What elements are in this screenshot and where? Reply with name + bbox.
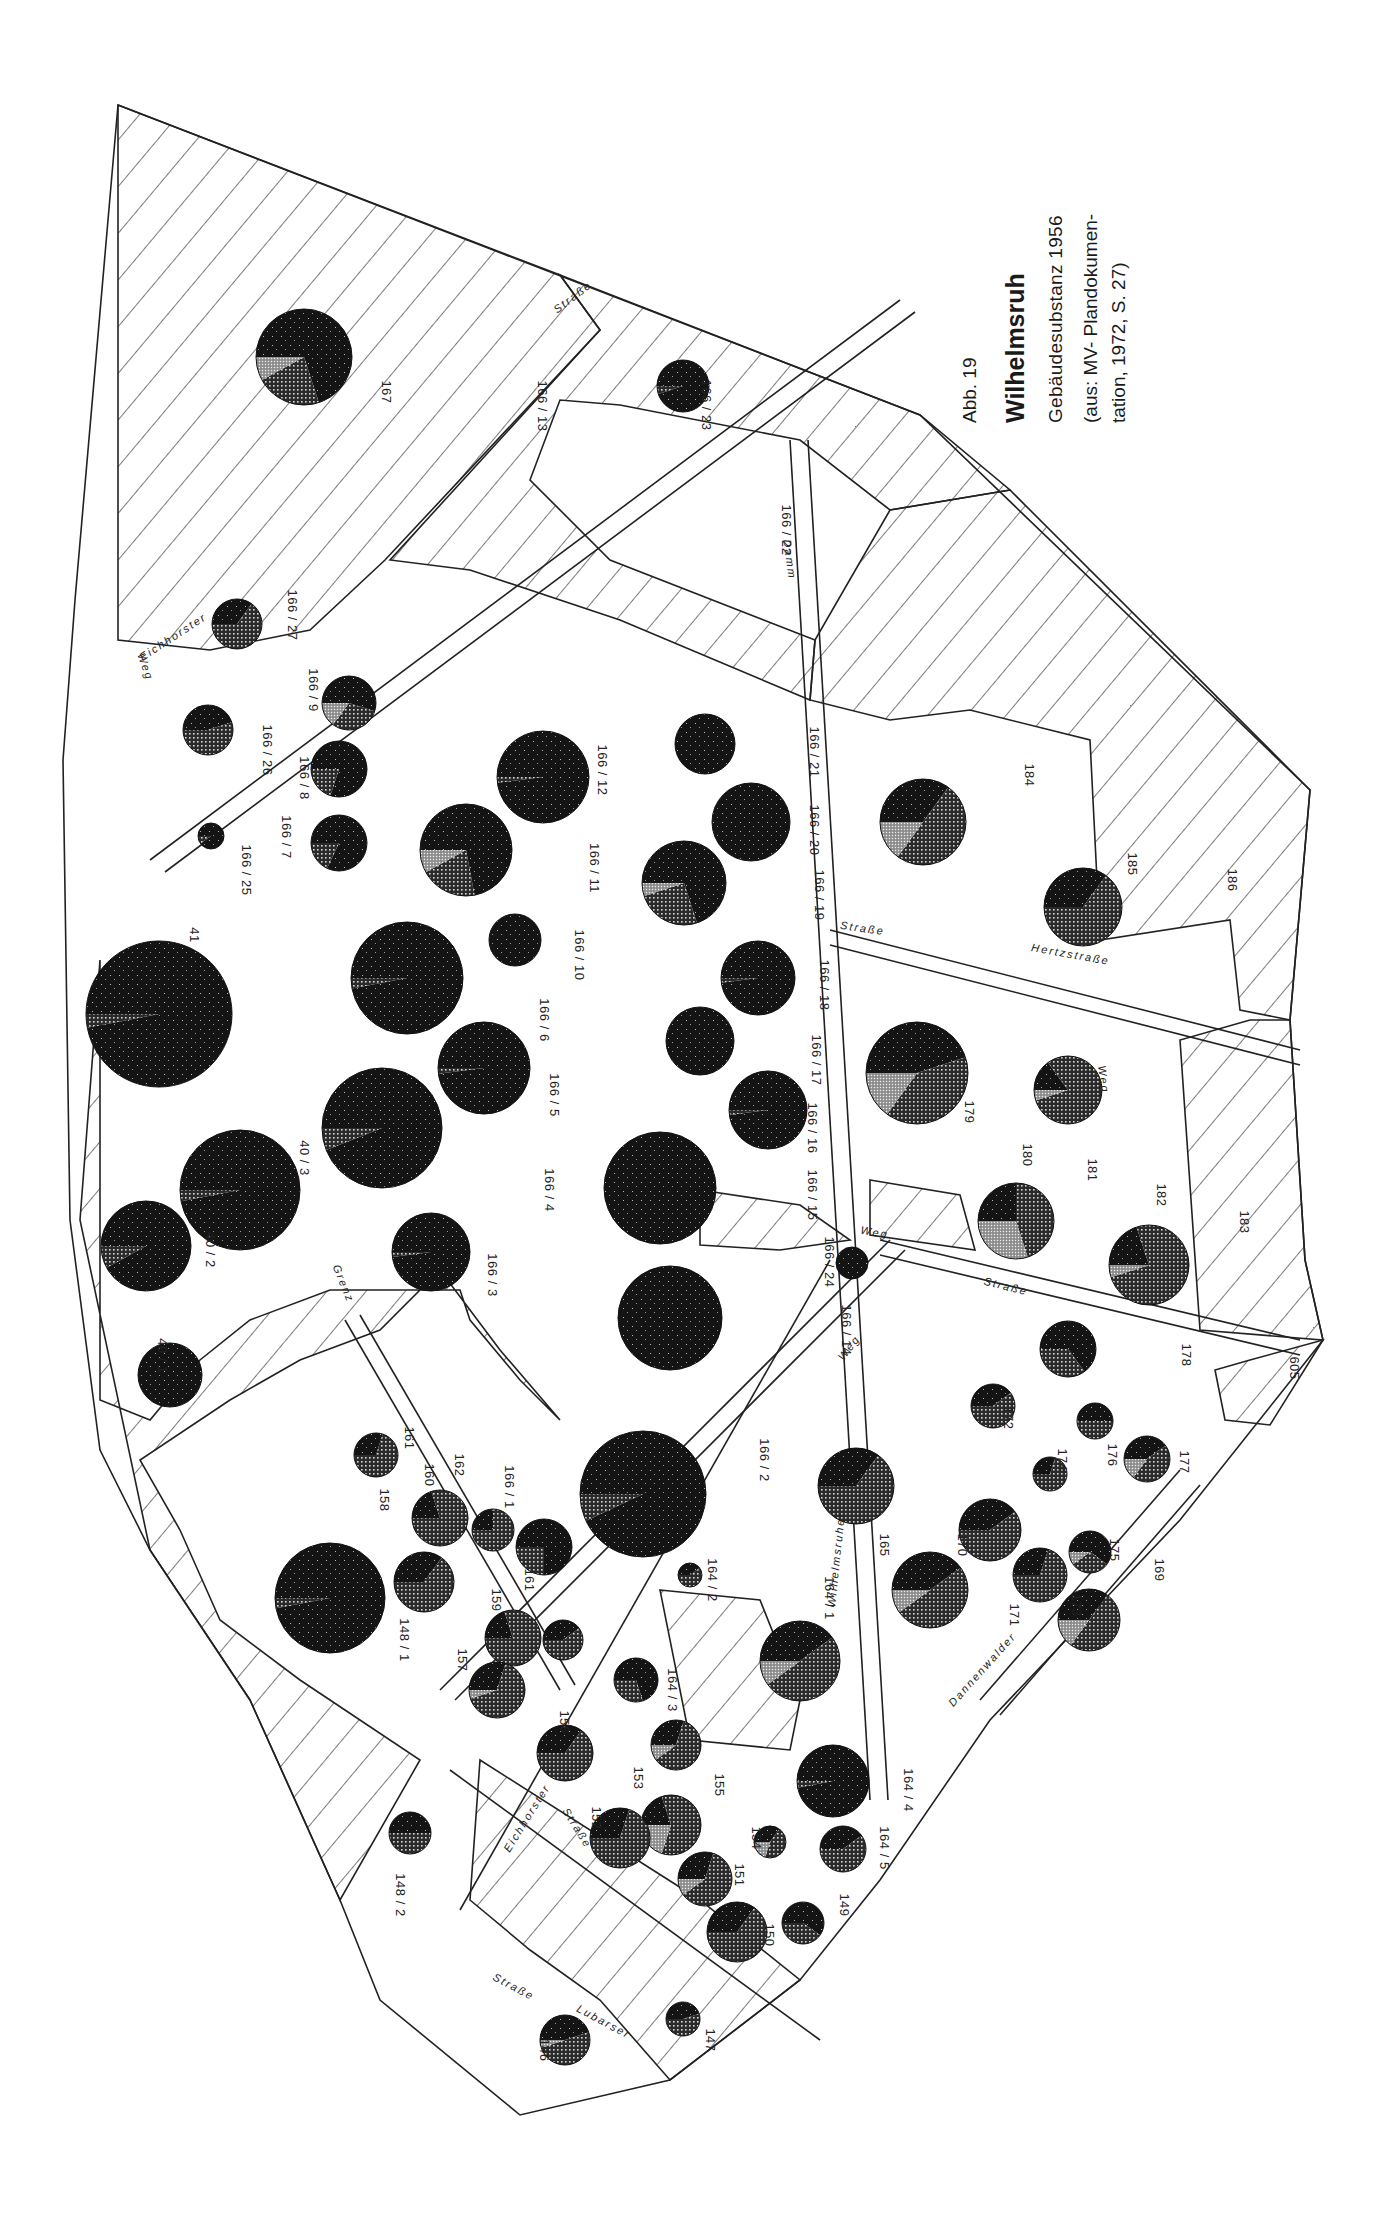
parcel-number-label: 166 / 24	[822, 1237, 837, 1288]
building-pie-symbol	[322, 676, 376, 730]
building-pie-symbol	[394, 1552, 454, 1612]
building-pie-symbol	[351, 922, 463, 1034]
parcel-number-label: 175	[1107, 1538, 1122, 1561]
building-pie-symbol	[1044, 868, 1122, 946]
parcel-number-label: 166 / 5	[547, 1073, 562, 1116]
street-name-label: Straße	[983, 1275, 1030, 1298]
parcel-number-label: 152	[589, 1806, 604, 1829]
parcel-number-label: 166 / 12	[595, 745, 610, 796]
building-pie-symbol	[1069, 1531, 1111, 1573]
building-pie-symbol	[880, 779, 966, 865]
parcel-number-label: 166 / 21	[807, 727, 822, 778]
building-pie-symbol	[782, 1902, 824, 1944]
figure-caption: Abb. 19 Wilhelmsruh Gebäudesubstanz 1956…	[925, 165, 1145, 435]
building-pie-symbol	[818, 1448, 894, 1524]
figure-subtitle: Gebäudesubstanz 1956	[1045, 215, 1067, 423]
building-pie-symbol	[866, 1022, 968, 1124]
building-pie-symbol	[892, 1552, 968, 1628]
parcel-number-label: 153	[631, 1766, 646, 1789]
street-name-label: Straße	[491, 1971, 536, 2003]
parcel-number-label: 41	[187, 927, 202, 942]
parcel-number-label: 166 / 3	[485, 1253, 500, 1296]
building-pie-symbol	[311, 815, 367, 871]
figure-source-line-1: (aus: MV- Plandokumen-	[1080, 214, 1102, 423]
parcel-number-label: 154	[749, 1826, 764, 1849]
parcel-number-label: 166 / 11	[587, 843, 602, 893]
parcel-number-label: 166 / 23	[699, 380, 714, 431]
parcel-number-label: 164 / 2	[705, 1558, 720, 1601]
building-pie-symbol	[666, 2002, 700, 2036]
parcel-number-label: 166 / 13	[535, 381, 550, 432]
parcel-number-label: 158	[377, 1488, 392, 1511]
parcel-number-label: 166 / 1	[502, 1465, 517, 1508]
building-pie-symbol	[1077, 1403, 1113, 1439]
parcel-number-label: 183	[1237, 1210, 1252, 1233]
parcel-number-label: 184	[1022, 763, 1037, 786]
building-pie-symbol	[604, 1132, 716, 1244]
parcel-number-label: 185	[1125, 852, 1140, 875]
building-pie-symbol	[516, 1519, 572, 1575]
building-pie-symbol	[580, 1431, 706, 1557]
building-pie-symbol	[978, 1183, 1054, 1259]
parcel-number-label: 178	[1179, 1343, 1194, 1366]
parcel-number-label: 166 / 25	[239, 845, 254, 896]
parcel-number-label: 182	[1154, 1183, 1169, 1206]
building-pie-symbol	[721, 941, 795, 1015]
building-pie-symbol	[678, 1563, 702, 1587]
building-pie-symbol	[183, 705, 233, 755]
building-pie-symbol	[86, 941, 232, 1087]
building-pie-symbol	[820, 1826, 866, 1872]
parcel-number-label: 172	[1001, 1406, 1016, 1429]
parcel-number-label: 160	[422, 1463, 437, 1486]
building-pie-symbol	[836, 1247, 868, 1279]
parcel-number-label: 40 / 3	[297, 1140, 312, 1176]
parcel-number-label: 164 / 5	[877, 1826, 892, 1869]
parcel-number-label: 181	[1085, 1158, 1100, 1181]
parcel-number-label: 156	[557, 1710, 572, 1733]
building-pie-symbol	[729, 1071, 807, 1149]
parcel-number-label: 166 / 16	[805, 1103, 820, 1154]
parcel-number-label: 165	[877, 1533, 892, 1556]
parcel-number-label: 166 / 20	[807, 805, 822, 856]
building-pie-symbol	[485, 1610, 541, 1666]
parcel-number-label: 166 / 15	[805, 1170, 820, 1221]
parcel-number-label: 173	[1069, 1593, 1084, 1616]
building-pie-symbol	[1124, 1436, 1170, 1482]
parcel-number-label: 150	[762, 1923, 777, 1946]
building-pie-symbol	[389, 1812, 431, 1854]
street-name-label: Hertzstraße	[1031, 941, 1111, 967]
parcel-number-label: 174	[1055, 1448, 1070, 1471]
building-pie-symbol	[712, 783, 790, 861]
parcel-number-label: 166 / 18	[817, 960, 832, 1011]
building-pie-symbol	[1040, 1321, 1096, 1377]
parcel-number-label: 157	[455, 1648, 470, 1671]
parcel-number-label: 159	[489, 1588, 504, 1611]
building-pie-symbol	[198, 823, 224, 849]
building-pie-symbol	[101, 1201, 191, 1291]
building-pie-symbol	[642, 841, 726, 925]
parcel-number-label: 166 / 7	[279, 815, 294, 858]
parcel-number-label: 161	[402, 1426, 417, 1449]
building-pie-symbol	[322, 1068, 442, 1188]
building-pie-symbol	[275, 1543, 385, 1653]
hatched-area	[1215, 1340, 1323, 1425]
building-pie-symbol	[469, 1662, 525, 1718]
building-pie-symbol	[641, 1795, 701, 1855]
building-pie-symbol	[420, 804, 512, 896]
parcel-number-label: 40 / 2	[203, 1232, 218, 1268]
parcel-number-label: 166 / 8	[297, 756, 312, 799]
building-pie-symbol	[1058, 1589, 1120, 1651]
hatched-area	[810, 490, 1310, 1020]
building-pie-symbol	[678, 1852, 732, 1906]
building-pie-symbol	[412, 1490, 468, 1546]
parcel-number-label: 148 / 1	[397, 1618, 412, 1661]
parcel-number-label: 169	[1152, 1558, 1167, 1581]
building-pie-symbol	[489, 914, 541, 966]
building-pie-symbol	[497, 731, 589, 823]
building-pie-symbol	[666, 1007, 734, 1075]
figure-source-line-2: tation, 1972, S. 27)	[1108, 262, 1130, 423]
parcel-number-label: 166 / 10	[572, 930, 587, 981]
building-pie-symbol	[618, 1266, 722, 1370]
parcel-number-label: 166 / 19	[812, 870, 827, 921]
parcel-number-label: 151	[732, 1863, 747, 1886]
